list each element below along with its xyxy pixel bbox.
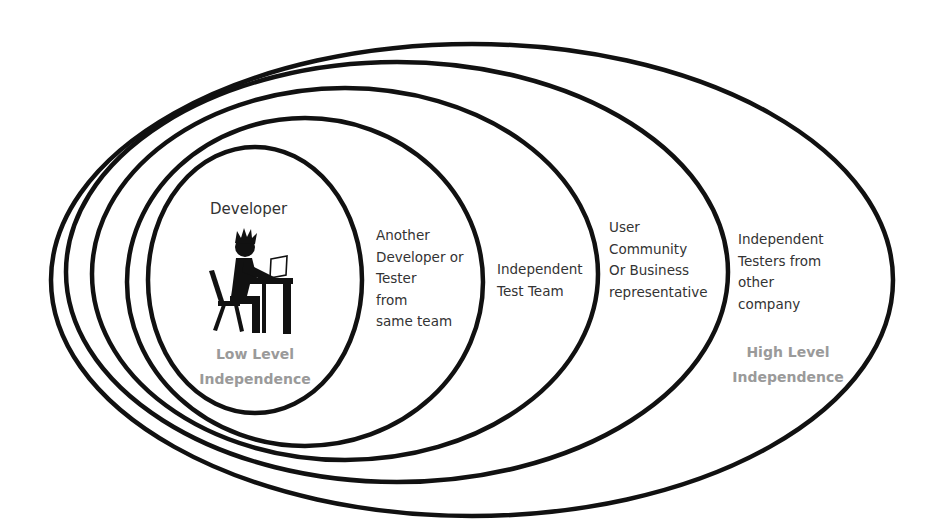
another-developer-line-1: Another — [376, 225, 464, 247]
user-community-line-4: representative — [609, 282, 708, 304]
user-community-line-2: Community — [609, 239, 708, 261]
another-developer-line-3: Tester — [376, 268, 464, 290]
another-developer-line-4: from — [376, 290, 464, 312]
independent-testers-label: Independent Testers from other company — [738, 229, 824, 315]
independent-testers-line-4: company — [738, 294, 824, 316]
low-level-independence-label: Low Level Independence — [195, 342, 315, 392]
high-level-line-2: Independence — [723, 365, 853, 390]
independent-testers-line-2: Testers from — [738, 251, 824, 273]
developer-title: Developer — [210, 200, 287, 218]
user-community-line-1: User — [609, 217, 708, 239]
another-developer-label: Another Developer or Tester from same te… — [376, 225, 464, 333]
another-developer-line-5: same team — [376, 311, 464, 333]
high-level-independence-label: High Level Independence — [723, 340, 853, 390]
independent-testers-line-1: Independent — [738, 229, 824, 251]
user-community-label: User Community Or Business representativ… — [609, 217, 708, 303]
developer-at-desk-icon — [209, 228, 293, 334]
independent-testers-line-3: other — [738, 272, 824, 294]
test-team-line-1: Independent — [497, 259, 583, 281]
another-developer-line-2: Developer or — [376, 247, 464, 269]
low-level-line-1: Low Level — [195, 342, 315, 367]
low-level-line-2: Independence — [195, 367, 315, 392]
user-community-line-3: Or Business — [609, 260, 708, 282]
laptop-icon — [270, 256, 287, 278]
high-level-line-1: High Level — [723, 340, 853, 365]
independent-test-team-label: Independent Test Team — [497, 259, 583, 302]
test-team-line-2: Test Team — [497, 281, 583, 303]
